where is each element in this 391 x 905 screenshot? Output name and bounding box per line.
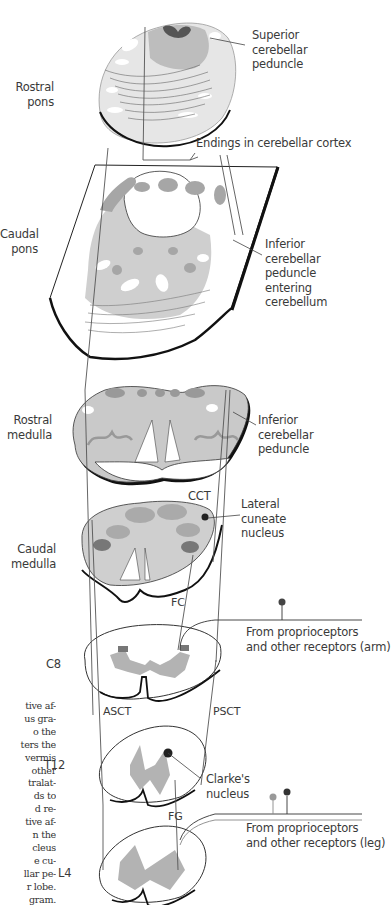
label-fg: FG	[168, 810, 182, 825]
caption-line: ds to	[0, 790, 56, 803]
l4-section	[99, 826, 206, 905]
leg-receptor-cell-body-dark	[284, 789, 291, 796]
label-asct: ASCT	[103, 705, 131, 720]
label-cct: CCT	[188, 489, 210, 504]
label-rostral-medulla: Rostral medulla	[0, 413, 52, 442]
caption-line: tive af-	[0, 700, 56, 713]
caption-line: vermis	[0, 752, 56, 765]
rostral-pons-section	[99, 23, 236, 146]
label-rostral-pons: Rostral pons	[6, 80, 54, 109]
label-caudal-pons: Caudal pons	[0, 227, 38, 256]
caption-line: cleus	[0, 842, 56, 855]
label-inferior-cerebellar-peduncle: Inferior cerebellar peduncle	[258, 413, 314, 457]
caption-line: us gra-	[0, 713, 56, 726]
caudal-pons-section	[50, 165, 278, 359]
caudal-medulla-section	[82, 501, 222, 602]
label-lateral-cuneate-nucleus: Lateral cuneate nucleus	[241, 497, 286, 541]
label-superior-cerebellar-peduncle: Superior cerebellar peduncle	[252, 28, 308, 72]
leg-receptor-cell-body-light	[270, 794, 277, 801]
t12-section	[99, 726, 206, 806]
caption-fragment: tive af-us gra-o theters thevermisothert…	[0, 700, 56, 905]
label-caudal-medulla: Caudal medulla	[0, 542, 56, 571]
caption-line: e cu-	[0, 855, 56, 868]
rostral-medulla-section	[73, 386, 250, 486]
label-icp-entering-cerebellum: Inferior cerebellar peduncle entering ce…	[265, 237, 327, 310]
label-fc: FC	[171, 596, 185, 611]
caption-line: llar pe-	[0, 868, 56, 881]
label-c8: C8	[46, 657, 61, 672]
caption-line: other	[0, 765, 56, 778]
caption-line: r lobe.	[0, 881, 56, 894]
caption-line: tralat-	[0, 777, 56, 790]
label-input-arm: From proprioceptors and other receptors …	[246, 625, 391, 654]
label-clarkes-nucleus: Clarke's nucleus	[206, 772, 250, 801]
caption-line: ters the	[0, 739, 56, 752]
caption-line: d re-	[0, 803, 56, 816]
arm-receptor-cell-body	[279, 599, 286, 606]
caption-line: n the	[0, 829, 56, 842]
label-endings-in-cerebellar-cortex: Endings in cerebellar cortex	[196, 136, 351, 151]
label-input-leg: From proprioceptors and other receptors …	[246, 821, 385, 850]
caption-line: tive af-	[0, 816, 56, 829]
label-psct: PSCT	[213, 705, 240, 720]
caption-line: o the	[0, 726, 56, 739]
c8-section	[84, 625, 221, 701]
caption-line: gram.	[0, 894, 56, 905]
label-l4: L4	[58, 866, 71, 881]
